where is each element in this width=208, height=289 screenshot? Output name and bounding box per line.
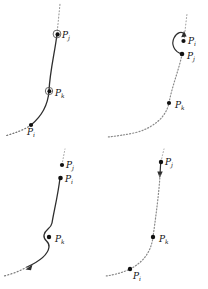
- panel-4-label-pk: Pk: [159, 235, 169, 244]
- panel-2-graphic: [104, 0, 208, 144]
- panel-4-label-pi: Pi: [133, 272, 141, 281]
- panel-3-point-pj-dot: [60, 163, 64, 167]
- panel-1-label-pk: Pk: [55, 89, 65, 98]
- panel-3-curve: [27, 178, 60, 267]
- panel-1-label-pj: Pj: [62, 31, 70, 40]
- panel-3-lower-dotted-tail: [4, 267, 27, 276]
- panel-2-label-pk: Pk: [175, 101, 185, 110]
- panel-2-point-pi-dot: [181, 39, 185, 43]
- panel-3-upper-dotted-tail: [62, 149, 65, 165]
- panel-1-upper-dotted-tail: [57, 4, 60, 34]
- panel-4-point-pk-dot: [151, 235, 155, 239]
- panel-1-label-pi: Pi: [27, 128, 35, 137]
- panel-1-point-pj-dot: [56, 32, 60, 36]
- panel-3-graphic: [0, 145, 104, 289]
- diagram-panel-4: Pj Pk Pi: [104, 145, 208, 289]
- diagram-panel-3: Pj Pi Pk: [0, 145, 104, 289]
- panel-1-point-pk-dot: [47, 89, 51, 93]
- panel-1-curve: [31, 34, 57, 125]
- panel-4-point-pi-dot: [128, 267, 132, 271]
- panel-4-curve: [106, 175, 160, 276]
- figure-canvas: Pj Pk Pi Pi Pj: [0, 0, 208, 289]
- panel-2-point-pk-dot: [167, 101, 171, 105]
- panel-3-label-pk: Pk: [55, 235, 65, 244]
- panel-3-point-pi-dot: [58, 176, 63, 181]
- panel-2-point-pj-dot: [180, 52, 185, 57]
- panel-2-label-pi: Pi: [188, 37, 196, 46]
- panel-4-graphic: [104, 145, 208, 289]
- panel-4-point-pj-dot: [159, 160, 163, 164]
- panel-2-curve: [108, 54, 182, 137]
- panel-2-label-pj: Pj: [187, 52, 195, 61]
- panel-3-label-pi: Pi: [65, 175, 73, 184]
- diagram-panel-1: Pj Pk Pi: [0, 0, 104, 144]
- panel-1-graphic: [0, 0, 104, 144]
- diagram-panel-2: Pi Pj Pk: [104, 0, 208, 144]
- panel-3-point-pk-dot: [47, 235, 51, 239]
- panel-4-label-pj: Pj: [165, 158, 173, 167]
- panel-3-label-pj: Pj: [66, 161, 74, 170]
- panel-2-upper-dotted-tail: [184, 14, 187, 41]
